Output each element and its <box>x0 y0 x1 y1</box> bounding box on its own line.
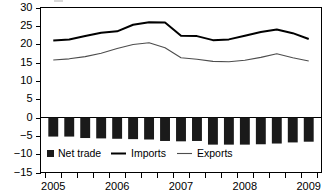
x-year-label: 2008 <box>233 180 257 192</box>
x-year-label: 2006 <box>105 180 129 192</box>
net-trade-bar <box>256 118 266 145</box>
net-trade-bar <box>176 118 186 142</box>
net-trade-bar <box>224 118 234 145</box>
x-year-label: 2009 <box>296 180 320 192</box>
x-axis-ticks <box>46 173 318 178</box>
net-trade-bar <box>304 118 314 142</box>
net-trade-bar <box>288 118 298 143</box>
y-tick-label: −15 <box>14 166 33 178</box>
imports-line-series <box>53 22 308 40</box>
y-tick-label: 15 <box>20 56 32 68</box>
y-tick-label: 30 <box>20 1 32 13</box>
net-trade-bar <box>192 118 202 141</box>
net-trade-bar <box>208 118 218 145</box>
legend-label-net-trade: Net trade <box>58 147 101 159</box>
x-axis-year-labels: 20052006200720082009 <box>41 180 321 192</box>
net-trade-bar <box>128 118 138 140</box>
chart-canvas: 302520151050−5−10−15 2005200620072008200… <box>0 0 326 196</box>
net-trade-bar <box>240 118 250 145</box>
net-trade-bar <box>112 118 122 139</box>
net-trade-bar <box>96 118 106 139</box>
y-tick-label: −5 <box>20 129 33 141</box>
y-tick-label: 5 <box>26 92 32 104</box>
y-tick-label: 20 <box>20 37 32 49</box>
x-year-label: 2007 <box>169 180 193 192</box>
legend-label-exports: Exports <box>197 147 233 159</box>
y-axis: 302520151050−5−10−15 <box>14 1 41 178</box>
net-trade-bar <box>48 118 58 137</box>
net-trade-bar <box>64 118 74 137</box>
legend-swatch-net-trade <box>47 150 54 157</box>
net-trade-bar <box>144 118 154 140</box>
net-trade-bar <box>80 118 90 139</box>
exports-line-series <box>53 43 308 62</box>
y-tick-label: −10 <box>14 147 33 159</box>
x-year-label: 2005 <box>41 180 65 192</box>
net-trade-bar <box>272 118 282 144</box>
cropped-title-artifact <box>54 0 63 2</box>
trade-balance-chart: 302520151050−5−10−15 2005200620072008200… <box>0 0 326 196</box>
chart-legend: Net trade Imports Exports <box>47 147 233 159</box>
net-trade-bars <box>48 118 313 145</box>
net-trade-bar <box>160 118 170 141</box>
y-tick-label: 0 <box>26 111 32 123</box>
legend-label-imports: Imports <box>131 147 166 159</box>
y-tick-label: 10 <box>20 74 32 86</box>
y-tick-label: 25 <box>20 19 32 31</box>
